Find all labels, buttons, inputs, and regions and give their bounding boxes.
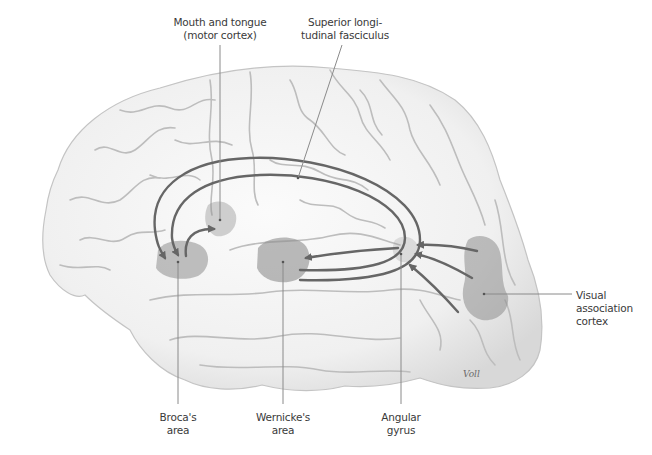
- label-wernicke-line1: Wernicke's: [248, 411, 318, 424]
- label-visual-association-cortex: Visual association cortex: [576, 289, 652, 328]
- label-broca-line2: area: [148, 424, 208, 437]
- label-visual-line1: Visual: [576, 289, 652, 302]
- brain-outline: [43, 66, 542, 390]
- label-visual-line2: association: [576, 302, 652, 315]
- label-visual-line3: cortex: [576, 315, 652, 328]
- artist-signature: Voll: [463, 369, 480, 379]
- brain-language-diagram: Voll Mouth and tongue (motor cortex) Sup…: [0, 0, 652, 455]
- label-slf-line2: tudinal fasciculus: [290, 29, 400, 42]
- label-angular-line1: Angular: [371, 411, 431, 424]
- broca-area-shade: [156, 241, 208, 279]
- brain-illustration: Voll: [0, 0, 652, 455]
- label-mouth-tongue-line1: Mouth and tongue: [166, 16, 274, 29]
- label-wernicke-line2: area: [248, 424, 318, 437]
- label-mouth-tongue-line2: (motor cortex): [166, 29, 274, 42]
- label-angular-gyrus: Angular gyrus: [371, 411, 431, 437]
- label-slf-line1: Superior longi-: [290, 16, 400, 29]
- label-angular-line2: gyrus: [371, 424, 431, 437]
- label-mouth-tongue: Mouth and tongue (motor cortex): [166, 16, 274, 42]
- label-wernicke-area: Wernicke's area: [248, 411, 318, 437]
- label-broca-line1: Broca's: [148, 411, 208, 424]
- label-superior-longitudinal-fasciculus: Superior longi- tudinal fasciculus: [290, 16, 400, 42]
- label-broca-area: Broca's area: [148, 411, 208, 437]
